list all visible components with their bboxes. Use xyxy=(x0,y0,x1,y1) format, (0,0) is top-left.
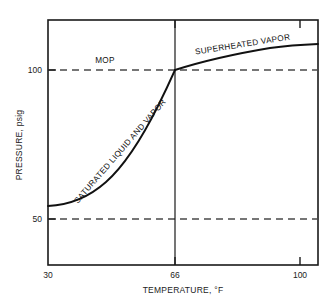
pressure-temperature-chart: 100 50 30 66 100 PRESSURE, psig TEMPERAT… xyxy=(0,0,333,303)
mop-annotation: MOP xyxy=(95,56,115,65)
y-axis-title: PRESSURE, psig xyxy=(14,110,24,181)
saturated-liquid-vapor-curve xyxy=(48,70,175,206)
x-tick-label-100: 100 xyxy=(293,270,307,280)
y-tick-label-100: 100 xyxy=(28,65,42,75)
plot-frame xyxy=(48,20,318,265)
chart-canvas: 100 50 30 66 100 PRESSURE, psig TEMPERAT… xyxy=(0,0,333,303)
saturated-liquid-and-vapor-annotation: SATURATED LIQUID AND VAPOR xyxy=(72,97,167,205)
y-tick-label-50: 50 xyxy=(33,214,43,224)
x-tick-label-66: 66 xyxy=(170,270,180,280)
x-tick-label-30: 30 xyxy=(43,270,53,280)
x-axis-title: TEMPERATURE, °F xyxy=(143,285,224,295)
